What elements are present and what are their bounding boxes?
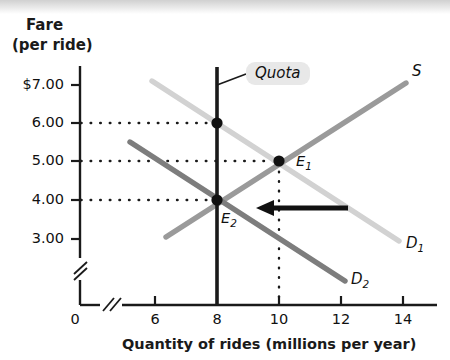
chart-canvas [0,0,450,360]
y-axis-break-mark-1 [74,262,87,274]
demand1-curve-label-text: D [406,234,418,252]
quota-leader-line [217,74,246,85]
point-quota-on-d1 [211,117,222,128]
y-tick-label-3: 3.00 [0,230,64,246]
demand1-curve-label: D1 [406,234,424,254]
x-tick-label-14: 14 [388,311,418,327]
supply-demand-quota-figure: Fare (per ride) Quantity of rides (milli… [0,0,450,360]
demand2-curve-label-text: D [351,270,363,288]
x-tick-label-6: 6 [140,311,170,327]
y-tick-label-4: 4.00 [0,191,64,207]
arrow-head [256,200,274,216]
equilibrium-1-label-sub: 1 [305,160,312,172]
demand2-curve-label-sub: 2 [363,278,370,290]
y-axis-title-line2: (per ride) [12,36,93,54]
demand1-curve-label-sub: 1 [418,242,425,254]
x-tick-label-10: 10 [264,311,294,327]
y-axis-title-line1: Fare [26,16,63,34]
point-e1 [273,155,284,166]
supply-curve-s [166,83,406,237]
y-tick-label-5: 5.00 [0,152,64,168]
x-tick-label-8: 8 [202,311,232,327]
point-e2 [211,194,222,205]
x-tick-label-0: 0 [60,311,90,327]
demand-curve-d2 [130,142,345,281]
x-axis-title: Quantity of rides (millions per year) [122,336,416,352]
quota-annotation-label: Quota [246,62,310,85]
y-tick-label-7: $7.00 [0,76,64,92]
equilibrium-2-label-sub: 2 [230,217,237,229]
demand2-curve-label: D2 [351,270,369,290]
equilibrium-1-label: E1 [296,153,312,172]
x-tick-label-12: 12 [326,311,356,327]
equilibrium-2-label-text: E [221,210,230,226]
equilibrium-1-label-text: E [296,153,305,169]
y-axis-break-mark-2 [74,268,87,280]
supply-curve-label: S [412,62,422,80]
demand-shift-arrow [256,200,348,216]
y-tick-label-6: 6.00 [0,114,64,130]
equilibrium-2-label: E2 [221,210,237,229]
